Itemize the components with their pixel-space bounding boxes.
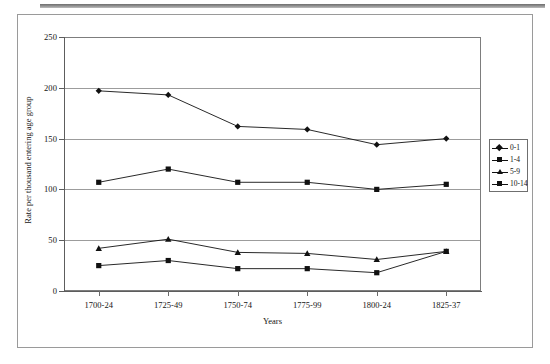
legend-marker-square-icon (492, 155, 508, 166)
page-canvas: Rate per thousand entering age group 050… (0, 0, 550, 364)
data-point (444, 249, 449, 254)
series-line (99, 251, 447, 272)
data-point (96, 180, 101, 185)
line-chart: Rate per thousand entering age group 050… (0, 0, 550, 364)
legend-marker-triangle-icon (492, 167, 508, 178)
series-1-4 (96, 166, 449, 192)
data-point (96, 263, 101, 268)
series-5-9 (96, 236, 450, 262)
data-point (374, 142, 380, 148)
data-point (235, 180, 240, 185)
series-line (99, 169, 447, 189)
legend-item[interactable]: 10-14 (492, 178, 527, 190)
legend-marker-diamond-icon (492, 143, 508, 154)
series-layer (0, 0, 550, 364)
data-point (166, 166, 171, 171)
data-point (305, 266, 310, 271)
legend-label: 5-9 (510, 168, 520, 176)
legend-item[interactable]: 5-9 (492, 166, 527, 178)
series-line (99, 239, 447, 259)
legend-marker-square-icon (492, 179, 508, 190)
legend-item[interactable]: 1-4 (492, 154, 527, 166)
legend-label: 1-4 (510, 156, 520, 164)
legend-label: 10-14 (510, 180, 528, 188)
chart-legend[interactable]: 0-11-45-910-14 (489, 139, 528, 192)
data-point (443, 136, 449, 142)
legend-label: 0-1 (510, 144, 520, 152)
data-point (305, 180, 310, 185)
data-point (235, 123, 241, 129)
data-point (374, 187, 379, 192)
data-point (374, 270, 379, 275)
data-point (444, 182, 449, 187)
data-point (96, 88, 102, 94)
legend-item[interactable]: 0-1 (492, 142, 527, 154)
data-point (166, 258, 171, 263)
series-line (99, 91, 447, 145)
data-point (304, 126, 310, 132)
series-0-1 (96, 88, 450, 148)
data-point (235, 266, 240, 271)
data-point (165, 92, 171, 98)
data-point (165, 236, 171, 242)
